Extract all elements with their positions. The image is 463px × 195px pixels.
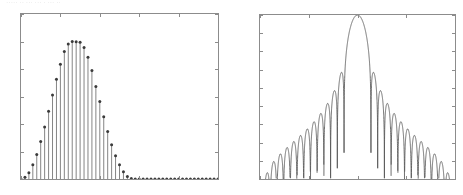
y-tick-right-4 bbox=[452, 88, 455, 89]
x-tick-top-3 bbox=[139, 14, 140, 17]
y-tick-0 bbox=[21, 179, 24, 180]
x-tick-top-4 bbox=[179, 14, 180, 17]
y-tick-1 bbox=[21, 152, 24, 153]
y-tick-5 bbox=[260, 106, 263, 107]
y-tick-right-4 bbox=[215, 69, 218, 70]
y-tick-2 bbox=[21, 124, 24, 125]
y-tick-right-1 bbox=[215, 152, 218, 153]
x-tick-2 bbox=[358, 176, 359, 179]
y-tick-right-9 bbox=[452, 179, 455, 180]
y-tick-9 bbox=[260, 179, 263, 180]
y-tick-7 bbox=[260, 143, 263, 144]
x-tick-2 bbox=[100, 176, 101, 179]
x-tick-top-2 bbox=[358, 15, 359, 18]
y-tick-5 bbox=[21, 42, 24, 43]
y-tick-right-0 bbox=[215, 179, 218, 180]
y-tick-3 bbox=[21, 97, 24, 98]
y-tick-6 bbox=[260, 124, 263, 125]
y-tick-right-5 bbox=[452, 106, 455, 107]
y-tick-right-5 bbox=[215, 42, 218, 43]
x-tick-0 bbox=[21, 176, 22, 179]
y-tick-8 bbox=[260, 161, 263, 162]
x-tick-top-4 bbox=[455, 15, 456, 18]
y-tick-4 bbox=[260, 88, 263, 89]
x-tick-0 bbox=[260, 176, 261, 179]
y-tick-right-7 bbox=[452, 143, 455, 144]
y-tick-2 bbox=[260, 51, 263, 52]
x-tick-4 bbox=[179, 176, 180, 179]
x-tick-top-1 bbox=[309, 15, 310, 18]
x-tick-5 bbox=[218, 176, 219, 179]
x-tick-top-0 bbox=[260, 15, 261, 18]
frequency-response-svg bbox=[260, 15, 455, 179]
x-tick-top-3 bbox=[406, 15, 407, 18]
plot-area-time-domain: 00.20.40.60.811.201020304050 bbox=[20, 13, 219, 180]
x-tick-top-0 bbox=[21, 14, 22, 17]
y-tick-right-8 bbox=[452, 161, 455, 162]
y-tick-4 bbox=[21, 69, 24, 70]
x-tick-top-5 bbox=[218, 14, 219, 17]
y-tick-right-2 bbox=[215, 124, 218, 125]
x-tick-top-1 bbox=[60, 14, 61, 17]
x-tick-3 bbox=[406, 176, 407, 179]
y-tick-right-3 bbox=[452, 70, 455, 71]
y-tick-3 bbox=[260, 70, 263, 71]
x-tick-4 bbox=[455, 176, 456, 179]
panel-time-domain: 00.20.40.60.811.201020304050 bbox=[0, 0, 232, 195]
panel-frequency-response: 0−10−20−30−40−50−60−70−80−90−π−π/20π/2π bbox=[232, 0, 463, 195]
x-tick-3 bbox=[139, 176, 140, 179]
matlab-figure-two-panel: ····· ·· ··· ··· · ··· ·· 00.20.40.60.81… bbox=[0, 0, 463, 195]
y-tick-1 bbox=[260, 33, 263, 34]
y-tick-right-3 bbox=[215, 97, 218, 98]
x-tick-1 bbox=[309, 176, 310, 179]
y-tick-right-2 bbox=[452, 51, 455, 52]
plot-area-frequency-response: 0−10−20−30−40−50−60−70−80−90−π−π/20π/2π bbox=[259, 14, 456, 180]
x-tick-1 bbox=[60, 176, 61, 179]
x-tick-top-2 bbox=[100, 14, 101, 17]
y-tick-right-1 bbox=[452, 33, 455, 34]
y-tick-right-6 bbox=[452, 124, 455, 125]
stem-plot-svg bbox=[21, 14, 218, 179]
